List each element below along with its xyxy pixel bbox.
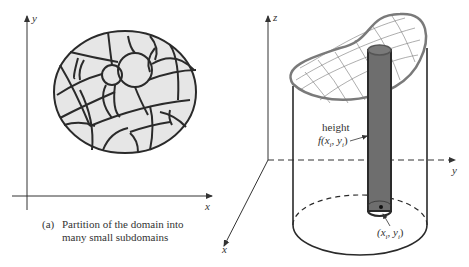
height-function-label: f(xi, yi)	[318, 134, 348, 149]
axis-z-label: z	[273, 11, 277, 23]
point-label: (xi, yi)	[377, 226, 404, 241]
axis-x-label-b: x	[222, 243, 227, 255]
column	[368, 45, 391, 216]
caption-tag: (a)	[42, 218, 54, 231]
axis-x-label-a: x	[205, 200, 210, 212]
caption-line-2: many small subdomains	[62, 231, 168, 244]
sample-point	[379, 205, 383, 209]
axis-y-label-b: y	[452, 164, 457, 176]
axis-y-label-a: y	[32, 12, 37, 24]
caption-line-1: Partition of the domain into	[62, 218, 184, 231]
surface-patch	[290, 14, 426, 103]
partitioned-domain	[54, 31, 196, 153]
figure: y x (a) Partition of the domain into man…	[0, 0, 469, 267]
height-label: height	[322, 121, 350, 133]
